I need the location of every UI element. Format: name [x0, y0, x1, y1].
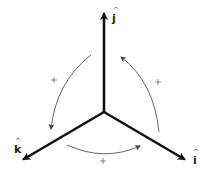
k-axis-arrow — [24, 112, 104, 159]
arc-k-to-i — [67, 145, 140, 154]
unit-vector-cycle-diagram — [0, 0, 205, 178]
k-label: k — [14, 144, 21, 155]
plus-sign-right — [155, 79, 161, 85]
i-axis-arrow — [104, 112, 184, 159]
i-label: i — [193, 155, 197, 166]
arc-i-to-j — [121, 57, 159, 132]
plus-sign-left — [51, 77, 57, 83]
j-label: j — [112, 13, 116, 24]
plus-sign-bottom — [100, 158, 106, 164]
arc-j-to-k — [51, 55, 91, 129]
